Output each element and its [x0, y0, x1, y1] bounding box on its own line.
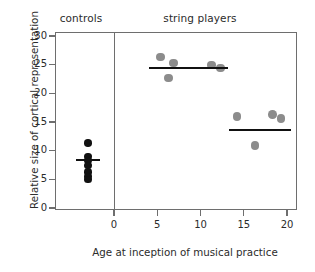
data-point-string-players — [169, 59, 178, 68]
x-axis-tick — [200, 210, 201, 216]
mean-line-controls — [76, 159, 100, 161]
x-axis-tick-label: 20 — [272, 219, 302, 230]
x-axis-tick — [157, 210, 158, 216]
mean-line-string-players — [229, 129, 291, 131]
x-axis-title: Age at inception of musical practice — [60, 246, 310, 258]
y-axis-tick-label: 25 — [7, 58, 47, 69]
x-axis-tick — [113, 210, 114, 216]
figure-scatter-plot: controls string players Relative size of… — [0, 0, 315, 272]
data-point-controls — [84, 139, 92, 147]
x-axis-tick — [243, 210, 244, 216]
data-point-string-players — [268, 110, 277, 119]
y-axis-tick — [49, 121, 55, 122]
panel-heading-string-players: string players — [140, 12, 260, 24]
y-axis-tick-label: 15 — [7, 116, 47, 127]
y-axis-tick-label: 0 — [7, 202, 47, 213]
mean-line-string-players — [149, 67, 228, 69]
y-axis-tick — [49, 93, 55, 94]
x-axis-tick-label: 10 — [186, 219, 216, 230]
y-axis-tick-label: 5 — [7, 173, 47, 184]
y-axis-tick-label: 30 — [7, 30, 47, 41]
x-axis-tick-label: 0 — [99, 219, 129, 230]
y-axis-tick-label: 20 — [7, 87, 47, 98]
y-axis-tick — [49, 150, 55, 151]
y-axis-tick — [49, 64, 55, 65]
panel-divider — [114, 32, 115, 210]
y-axis-tick — [49, 35, 55, 36]
data-point-string-players — [277, 114, 286, 123]
x-axis-tick-label: 5 — [142, 219, 172, 230]
data-point-string-players — [251, 141, 260, 150]
y-axis-tick-label: 10 — [7, 144, 47, 155]
x-axis-tick — [286, 210, 287, 216]
data-point-controls — [84, 176, 92, 184]
y-axis-tick — [49, 179, 55, 180]
x-axis-tick-label: 15 — [229, 219, 259, 230]
y-axis-tick — [49, 207, 55, 208]
data-point-string-players — [233, 112, 242, 121]
panel-heading-controls: controls — [48, 12, 114, 24]
data-point-string-players — [164, 74, 173, 83]
